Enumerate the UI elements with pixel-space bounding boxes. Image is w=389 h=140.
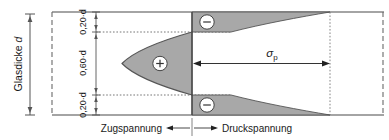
sigma-p-arrowhead-left: [193, 61, 201, 67]
sigma-p-dimension-group: [193, 61, 330, 67]
zone-dimension-group: [92, 12, 100, 115]
zone-arrow-mid-up: [94, 88, 98, 93]
caption-separator-group: [166, 118, 218, 136]
sign-marker-positive: [153, 56, 167, 70]
sigma-p-label: σp: [266, 47, 278, 62]
stress-distribution-diagram: Glasdicke d 0,20·d 0,60·d 0,20·d: [0, 0, 389, 140]
zone-arrow-bottom-up: [94, 108, 98, 113]
glasdicke-label: Glasdicke d: [12, 35, 24, 91]
zone-arrow-mid-down: [94, 34, 98, 39]
stress-profile-svg: Glasdicke d 0,20·d 0,60·d 0,20·d: [0, 0, 389, 140]
compressive-arrowhead: [211, 125, 218, 130]
zone-label-top: 0,20·d: [78, 9, 88, 35]
sign-marker-negative-top: [200, 15, 214, 29]
zone-arrow-top-down: [94, 14, 98, 19]
zone-arrow-lower-down: [94, 97, 98, 102]
glasdicke-symbol: d: [12, 35, 24, 42]
thickness-arrow-down: [28, 107, 33, 113]
sign-marker-negative-bottom: [200, 98, 214, 112]
thickness-arrow-up: [28, 16, 33, 22]
glasdicke-word: Glasdicke: [12, 42, 24, 91]
zone-label-middle: 0,60·d: [78, 50, 88, 76]
tensile-arrowhead: [166, 125, 173, 130]
zone-label-bottom: 0,20·d: [78, 92, 88, 118]
tensile-caption-label: Zugspannung: [101, 123, 162, 134]
zone-arrow-upper-up: [94, 25, 98, 30]
compressive-caption-label: Druckspannung: [222, 123, 292, 134]
thickness-dimension-group: [25, 14, 35, 115]
sigma-p-arrowhead-right: [322, 61, 330, 67]
sigma-subscript: p: [273, 53, 278, 62]
